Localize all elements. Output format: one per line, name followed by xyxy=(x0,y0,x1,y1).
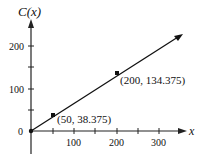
x-tick-label-200: 200 xyxy=(109,137,124,148)
line-arrow-icon xyxy=(174,34,183,41)
point-label-50: (50, 38.375) xyxy=(57,113,111,126)
point-label-200: (200, 134.375) xyxy=(120,74,185,87)
y-tick-label-200: 200 xyxy=(9,41,24,52)
point-50 xyxy=(51,113,55,117)
point-200 xyxy=(115,71,119,75)
origin-label: 0 xyxy=(18,126,23,137)
y-axis-label: C(x) xyxy=(18,4,41,19)
x-axis-label: x xyxy=(188,124,195,138)
x-axis-arrow-icon xyxy=(178,128,187,134)
cost-function-chart: C(x) x 0 100 200 100 200 300 (50, 38.375… xyxy=(0,0,197,154)
y-axis-arrow-icon xyxy=(28,19,34,28)
y-tick-label-100: 100 xyxy=(9,84,24,95)
x-tick-label-300: 300 xyxy=(151,137,166,148)
origin-point xyxy=(29,129,33,133)
x-tick-label-100: 100 xyxy=(66,137,81,148)
